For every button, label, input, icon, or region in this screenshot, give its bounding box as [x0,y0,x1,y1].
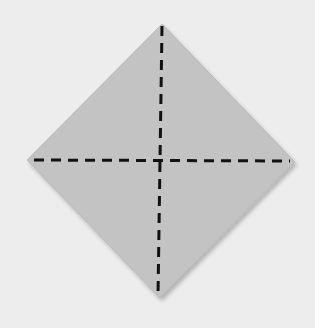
diagram-canvas [0,0,315,328]
origami-diagram [0,0,315,328]
